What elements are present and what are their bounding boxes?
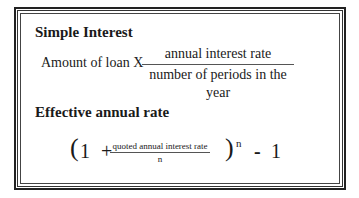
- fraction-numerator: quoted annual interest rate: [112, 141, 207, 151]
- simple-interest-fraction: annual interest rate number of periods i…: [142, 45, 294, 102]
- subtract-one: 1: [271, 140, 281, 163]
- effective-rate-heading: Effective annual rate: [35, 104, 169, 121]
- effective-rate-fraction: quoted annual interest rate n: [110, 141, 210, 164]
- fraction-bar: [110, 152, 210, 153]
- fraction-bar: [142, 64, 294, 65]
- loan-amount-label: Amount of loan X: [41, 55, 143, 71]
- simple-interest-heading: Simple Interest: [35, 24, 133, 41]
- fraction-numerator: annual interest rate: [142, 45, 294, 63]
- one-term: 1: [80, 140, 90, 163]
- exponent: n: [236, 137, 242, 149]
- close-paren: ): [225, 135, 234, 161]
- open-paren: (: [70, 135, 79, 161]
- fraction-denominator: number of periods in the year: [142, 66, 294, 102]
- fraction-denominator: n: [158, 154, 163, 164]
- minus-sign: -: [254, 140, 261, 163]
